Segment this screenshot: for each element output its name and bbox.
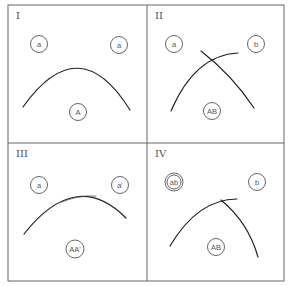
node-AB: AB bbox=[204, 103, 221, 120]
panel-label: IV bbox=[155, 148, 167, 159]
four-panel-diagram: I a a A II a b AB I bbox=[0, 0, 290, 286]
node-AA-prime: AA' bbox=[66, 240, 84, 258]
node-a-left: a bbox=[31, 36, 48, 53]
node-b: b bbox=[248, 36, 265, 53]
svg-text:A: A bbox=[75, 108, 80, 117]
svg-text:AA': AA' bbox=[69, 245, 81, 254]
arc-2 bbox=[221, 200, 258, 257]
node-ab-double: ab bbox=[165, 173, 183, 191]
arc-1 bbox=[170, 199, 237, 246]
svg-text:a: a bbox=[172, 40, 177, 49]
crossing-curve-2 bbox=[201, 51, 254, 108]
svg-text:a': a' bbox=[117, 181, 123, 190]
main-arc bbox=[24, 196, 126, 234]
svg-text:b: b bbox=[255, 178, 259, 187]
node-a: a bbox=[31, 177, 48, 194]
panel-label: II bbox=[155, 10, 163, 21]
node-AB: AB bbox=[208, 239, 225, 256]
node-b: b bbox=[249, 174, 266, 191]
svg-text:a: a bbox=[37, 181, 42, 190]
svg-text:AB: AB bbox=[207, 107, 217, 116]
node-A: A bbox=[70, 104, 87, 121]
crossing-curve-1 bbox=[171, 53, 238, 111]
panel-iv: IV ab b AB bbox=[155, 148, 266, 257]
node-a-prime: a' bbox=[112, 177, 129, 194]
panel-iii: III a a' AA' bbox=[16, 148, 129, 258]
node-a: a bbox=[166, 36, 183, 53]
svg-text:AB: AB bbox=[211, 243, 221, 252]
panel-label: I bbox=[16, 10, 20, 21]
panel-label: III bbox=[16, 148, 28, 159]
panel-ii: II a b AB bbox=[155, 10, 265, 120]
svg-text:a: a bbox=[117, 41, 122, 50]
svg-text:a: a bbox=[37, 40, 42, 49]
panel-i: I a a A bbox=[16, 10, 130, 121]
node-a-right: a bbox=[111, 37, 128, 54]
svg-text:ab: ab bbox=[170, 178, 178, 187]
svg-text:b: b bbox=[254, 40, 258, 49]
